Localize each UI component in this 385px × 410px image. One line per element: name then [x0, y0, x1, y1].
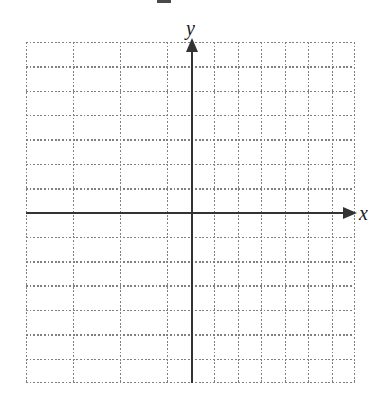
- x-axis-label: x: [359, 203, 368, 223]
- y-axis-label: y: [186, 18, 195, 38]
- coordinate-grid-figure: y x: [0, 0, 385, 410]
- axes-group: [0, 0, 385, 410]
